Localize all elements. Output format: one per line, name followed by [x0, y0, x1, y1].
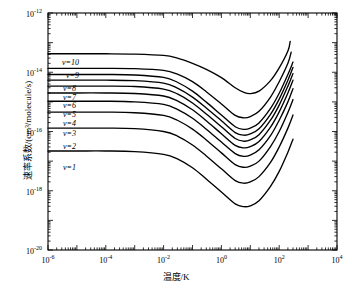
x-tick-label: 10-4	[89, 254, 123, 265]
axes-frame	[48, 13, 337, 250]
curve-label-v1: v=1	[63, 163, 76, 172]
data-curves	[48, 41, 293, 206]
curve-label-v5: v=5	[63, 110, 76, 119]
chart-plot-area	[0, 0, 352, 293]
x-tick-label: 10-6	[31, 254, 65, 265]
curve-label-v10: v=10	[62, 58, 79, 67]
curve-label-v4: v=4	[63, 119, 76, 128]
curve-label-v9: v=9	[66, 71, 79, 80]
y-tick-label: 10-12	[2, 8, 42, 19]
curve-v1	[48, 139, 293, 207]
curve-v4	[48, 89, 293, 157]
x-tick-label: 10-2	[147, 254, 181, 265]
axis-ticks	[48, 13, 337, 250]
x-tick-label: 102	[262, 254, 296, 265]
x-tick-label: 100	[204, 254, 238, 265]
x-axis-title: 温度/K	[0, 270, 352, 283]
curve-label-v3: v=3	[63, 129, 76, 138]
x-tick-label: 104	[320, 254, 352, 265]
curve-label-v8: v=8	[63, 84, 76, 93]
curve-label-v2: v=2	[63, 142, 76, 151]
figure: 10-12 10-14 10-16 10-18 10-20 10-6 10-4 …	[0, 0, 352, 293]
y-axis-title: 速率系数/(cm³/molecule/s)	[21, 51, 34, 211]
curve-label-v6: v=6	[63, 101, 76, 110]
